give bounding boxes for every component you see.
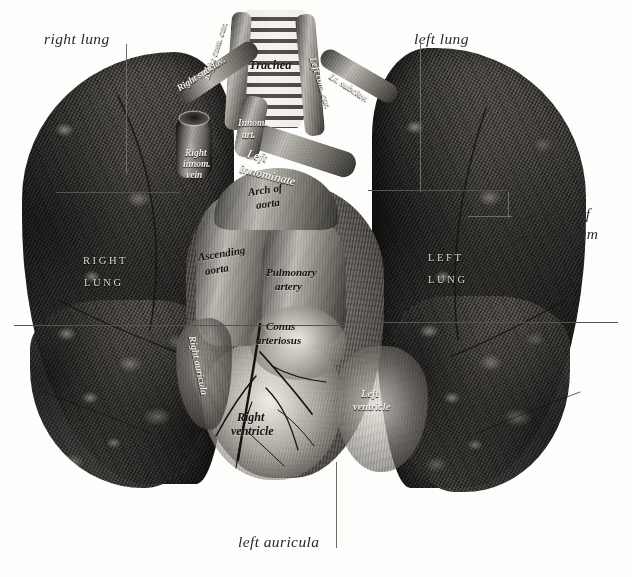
leader-pericardium-lower-right xyxy=(336,322,618,323)
label-left-auricula: left auricula xyxy=(238,533,319,552)
engraving-artwork xyxy=(0,0,632,577)
leader-right-lung xyxy=(126,44,127,174)
leader-cut-edge-riser xyxy=(508,192,509,218)
leader-left-lung xyxy=(420,44,421,192)
leader-left-auricula xyxy=(336,462,337,548)
label-left-lung: left lung xyxy=(414,30,469,49)
leader-pericardium-upper-left xyxy=(56,192,180,193)
leader-cut-edge-pericardium xyxy=(468,216,512,217)
label-right-lung: right lung xyxy=(44,30,110,49)
lung-fissures xyxy=(0,0,632,577)
leader-pericardium-upper-right xyxy=(368,190,508,191)
anatomical-plate: right lung left lung cut edge of pericar… xyxy=(0,0,632,577)
label-cut-edge-of-pericardium-line1: cut edge of xyxy=(518,205,590,224)
leader-pericardium-lower-left xyxy=(14,325,344,326)
label-cut-edge-of-pericardium-line2: pericardium xyxy=(518,225,598,244)
